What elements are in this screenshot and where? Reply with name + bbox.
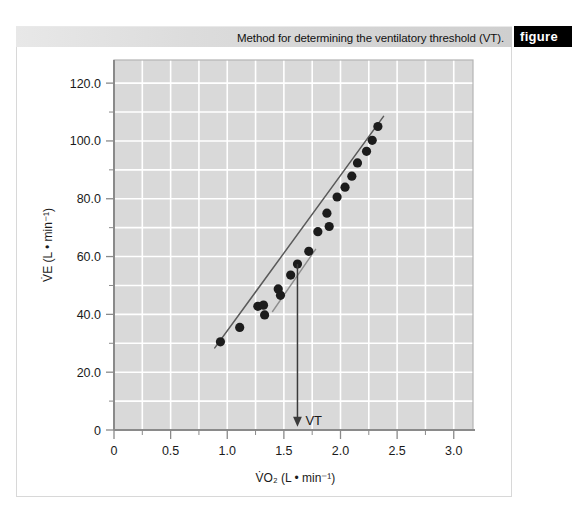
figure-header-bar: Method for determining the ventilatory t… xyxy=(16,26,512,48)
figure-frame xyxy=(16,47,512,497)
figure-caption: Method for determining the ventilatory t… xyxy=(237,32,504,44)
figure-tab-label: figure xyxy=(514,26,572,47)
